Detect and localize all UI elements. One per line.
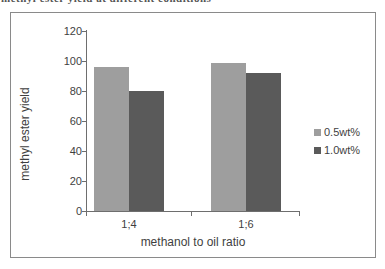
x-category-label: 1;4: [99, 218, 159, 230]
x-tick-mark: [299, 212, 300, 216]
legend-item: 1.0wt%: [314, 141, 374, 159]
chart-frame: 020406080100120 1;41;6 methyl ester yiel…: [10, 12, 376, 258]
y-tick-label: 80: [52, 86, 82, 97]
y-tick-mark: [82, 61, 86, 62]
x-category-label: 1;6: [216, 218, 276, 230]
y-tick-mark: [82, 181, 86, 182]
y-tick-label: 100: [52, 56, 82, 67]
bar-1.0wt%-1;6: [246, 73, 281, 211]
y-tick-label: 120: [52, 26, 82, 37]
x-tick-mark: [86, 212, 87, 216]
clipped-caption: methyl ester yield at different conditio…: [1, 0, 251, 5]
y-tick-mark: [82, 121, 86, 122]
y-tick-mark: [82, 31, 86, 32]
clipped-caption-text: methyl ester yield at different conditio…: [1, 0, 251, 4]
figure-page: methyl ester yield at different conditio…: [0, 0, 385, 269]
y-axis-title: methyl ester yield: [18, 74, 32, 194]
x-axis-line: [86, 211, 300, 212]
bar-1.0wt%-1;4: [129, 91, 164, 211]
y-tick-label: 0: [52, 206, 82, 217]
x-tick-mark: [191, 212, 192, 216]
legend-swatch-0.5wt%: [314, 129, 321, 136]
y-tick-mark: [82, 151, 86, 152]
bar-0.5wt%-1;4: [94, 67, 129, 211]
legend-label: 1.0wt%: [324, 144, 360, 156]
y-tick-label: 40: [52, 146, 82, 157]
bar-0.5wt%-1;6: [211, 63, 246, 212]
legend: 0.5wt%1.0wt%: [314, 123, 374, 159]
plot-area: 020406080100120 1;41;6 methyl ester yiel…: [11, 13, 375, 257]
legend-swatch-1.0wt%: [314, 147, 321, 154]
y-tick-label: 60: [52, 116, 82, 127]
legend-item: 0.5wt%: [314, 123, 374, 141]
y-axis-line: [86, 30, 87, 212]
y-tick-mark: [82, 91, 86, 92]
x-axis-title: methanol to oil ratio: [118, 235, 268, 249]
legend-label: 0.5wt%: [324, 126, 360, 138]
y-tick-label: 20: [52, 176, 82, 187]
